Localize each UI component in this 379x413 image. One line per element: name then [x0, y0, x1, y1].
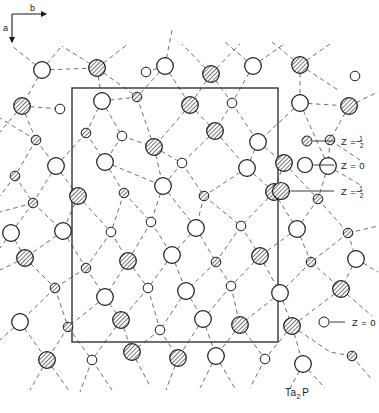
axis-label-a: a [3, 23, 8, 33]
atom-ta-zhalf [333, 281, 350, 298]
atom-ta-z0 [208, 348, 225, 365]
atom-ta-z0 [250, 134, 267, 151]
bond-line [0, 118, 36, 140]
legend-value: 0 [370, 317, 376, 328]
atom-ta-zhalf [70, 188, 87, 205]
atom-ta-z0 [272, 285, 289, 302]
legend-label-text: Z = [341, 160, 359, 171]
atom-ta-zhalf [146, 139, 163, 156]
atom-p-zhalf [50, 283, 60, 293]
atom-ta-zhalf [182, 97, 199, 114]
caption-subscript: 2 [297, 392, 302, 401]
atom-p-zhalf [63, 322, 73, 332]
atom-ta-z0 [320, 158, 337, 175]
atom-ta-zhalf [232, 317, 249, 334]
legend-label: Z = 0 [341, 160, 365, 171]
atom-p-zhalf [132, 92, 142, 102]
atom-p-zhalf [199, 191, 209, 201]
atom-ta-zhalf [17, 250, 34, 267]
atom-ta-z0 [188, 220, 205, 237]
atom-ta-zhalf [341, 98, 358, 115]
atom-p-z0 [146, 217, 156, 227]
atom-ta-z0 [195, 311, 212, 328]
atom-p-zhalf [119, 188, 129, 198]
atom-ta-z0 [295, 356, 312, 373]
atom-p-z0 [55, 104, 65, 114]
legend-label: Z = 0 [352, 317, 376, 328]
atom-p-z0 [226, 281, 236, 291]
atom-ta-z0 [164, 247, 181, 264]
atom-ta-z0 [348, 251, 365, 268]
atom-ta-zhalf [252, 248, 269, 265]
bond-line [311, 233, 348, 262]
atom-ta-z0 [155, 178, 172, 195]
atom-p-zhalf [343, 228, 353, 238]
caption-element-a: Ta [285, 387, 297, 398]
legend-fraction-numerator: 1 [359, 135, 363, 142]
atom-ta-zhalf [120, 253, 137, 270]
bond-line [318, 199, 348, 233]
atom-ta-zhalf [113, 312, 130, 329]
atom-p-zhalf [325, 135, 335, 145]
legend-bottom-item: Z = 0 [319, 317, 376, 328]
legend-symbol-small-hatched-circle [302, 136, 312, 146]
bond-line [105, 162, 163, 186]
bond-line [55, 288, 68, 327]
legend-label-text: Z = [341, 136, 359, 147]
legend-fraction-denominator: 2 [360, 192, 364, 199]
bond-line [124, 193, 151, 222]
atom-ta-zhalf [276, 155, 293, 172]
atom-p-z0 [141, 67, 151, 77]
atom-p-z0 [155, 325, 165, 335]
atom-ta-zhalf [39, 352, 56, 369]
legend-symbol-large-hatched-circle [273, 183, 290, 200]
atom-p-z0 [177, 158, 187, 168]
atom-ta-z0 [94, 93, 111, 110]
atom-ta-z0 [34, 62, 51, 79]
atom-ta-z0 [12, 314, 29, 331]
figure-caption: Ta2P [285, 387, 309, 401]
atom-ta-zhalf [203, 66, 220, 83]
legend-label-text: Z = [352, 317, 370, 328]
atom-ta-zhalf [89, 60, 106, 77]
atom-p-zhalf [31, 135, 41, 145]
atom-ta-z0 [178, 283, 195, 300]
atom-p-zhalf [10, 171, 20, 181]
atom-p-z0 [227, 98, 237, 108]
bond-network [0, 30, 378, 392]
bond-line [204, 196, 241, 226]
legend-fraction-denominator: 2 [360, 142, 364, 149]
bond-line [86, 232, 111, 268]
atom-ta-zhalf [292, 57, 309, 74]
atom-p-zhalf [28, 198, 38, 208]
legend-label: Z = 12 [341, 185, 364, 199]
figure-canvas: b a Z = 12Z = 0Z = 12Z = 0 Ta2P [0, 0, 379, 413]
atom-ta-zhalf [284, 318, 301, 335]
svg-text:Ta2P: Ta2P [285, 387, 309, 401]
atom-ta-z0 [97, 154, 114, 171]
atom-p-zhalf [211, 257, 221, 267]
atom-p-z0 [260, 354, 270, 364]
atom-p-zhalf [347, 351, 357, 361]
atom-p-zhalf [81, 263, 91, 273]
legend-value: 0 [359, 160, 365, 171]
atom-ta-zhalf [170, 350, 187, 367]
bond-line [148, 288, 160, 330]
atom-p-zhalf [306, 257, 316, 267]
atom-ta-z0 [239, 160, 256, 177]
axis-label-b: b [30, 3, 35, 13]
legend-symbol-medium-open-circle [298, 158, 313, 173]
atom-p-zhalf [81, 128, 91, 138]
atom-ta-z0 [97, 289, 114, 306]
bond-line [216, 226, 241, 262]
atom-p-z0 [87, 355, 97, 365]
atom-ta-zhalf [124, 344, 141, 361]
atom-p-zhalf [313, 194, 323, 204]
bond-line [92, 360, 112, 390]
atom-p-z0 [236, 221, 246, 231]
atom-ta-z0 [55, 223, 72, 240]
legend-symbol-small-open-circle [319, 317, 329, 327]
atom-ta-zhalf [207, 123, 224, 140]
bond-line [292, 289, 341, 326]
atom-p-z0 [350, 71, 360, 81]
